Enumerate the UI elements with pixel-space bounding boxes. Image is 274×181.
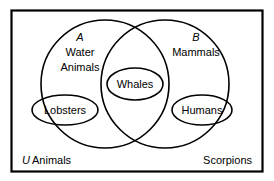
set-b-letter: B — [192, 31, 199, 43]
venn-diagram-canvas: A Water Animals B Mammals Lobsters Whale… — [0, 0, 274, 181]
set-a-label-line1: Water — [66, 46, 95, 58]
venn-diagram-figure: A Water Animals B Mammals Lobsters Whale… — [0, 0, 274, 181]
whales-label: Whales — [117, 78, 154, 90]
set-a-letter: A — [75, 31, 83, 43]
set-b-label-line1: Mammals — [172, 46, 220, 58]
outside-element-label: Scorpions — [203, 154, 252, 166]
lobsters-label: Lobsters — [44, 104, 87, 116]
universe-letter: U — [22, 154, 30, 166]
universe-label: Animals — [32, 154, 72, 166]
humans-label: Humans — [182, 104, 223, 116]
set-a-label-line2: Animals — [60, 61, 100, 73]
